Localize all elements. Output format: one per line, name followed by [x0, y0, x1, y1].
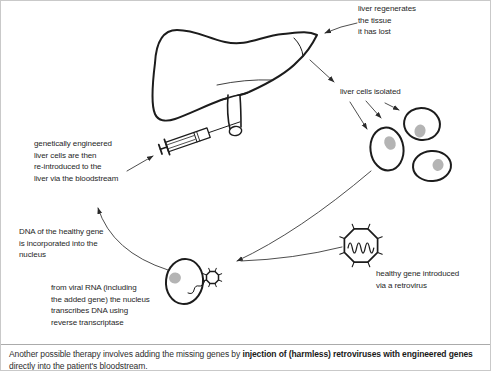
gallbladder-duct: [221, 93, 247, 137]
liver-cell: [368, 126, 406, 173]
arrow-infected-cell-to-reintroduction: [98, 208, 168, 270]
arrow-isolated-to-cell-1: [350, 102, 367, 129]
diagram-page: liver regenerates the tissue it has lost…: [0, 0, 491, 371]
label-liver-regenerates: liver regenerates the tissue it has lost: [358, 3, 416, 38]
label-healthy-gene-retrovirus: healthy gene introduced via a retrovirus: [376, 268, 459, 291]
retrovirus-body: [344, 229, 377, 262]
isolated-liver-cells: [368, 105, 452, 182]
arrow-liver-to-isolated-label: [310, 60, 334, 82]
caption-line2: directly into the patient's bloodstream.: [9, 361, 147, 371]
syringe-barrel: [165, 128, 210, 152]
caption-divider-rule: [1, 344, 491, 345]
liver-cell: [401, 105, 442, 143]
liver-cell: [412, 150, 452, 183]
label-liver-cells-isolated: liver cells isolated: [340, 86, 401, 98]
figure-caption: Another possible therapy involves adding…: [9, 348, 487, 371]
syringe-plunger-shaft: [160, 147, 167, 149]
arrow-isolated-to-cell-3: [385, 103, 399, 110]
arrow-text-to-syringe: [127, 156, 153, 171]
infected-cell-body: [164, 257, 206, 306]
retrovirus-icon: [340, 224, 382, 266]
arrow-regenerates-to-liver: [325, 23, 357, 33]
liver-cell-with-retrovirus: [164, 257, 222, 306]
attached-virus-body: [207, 272, 219, 284]
line-retrovirus-to-infected-cell: [241, 247, 342, 261]
attached-virus-icon: [203, 268, 221, 286]
caption-line1-bold: injection of (harmless) retroviruses wit…: [242, 349, 472, 359]
liver-illustration: [153, 30, 317, 137]
label-engineered-cells-reintroduced: genetically engineered liver cells are t…: [34, 138, 118, 184]
caption-line1-regular: Another possible therapy involves adding…: [9, 349, 242, 359]
label-dna-incorporated: DNA of the healthy gene is incorporated …: [19, 226, 103, 261]
label-viral-rna-transcription: from viral RNA (including the added gene…: [51, 282, 150, 328]
arrow-isolated-to-cell-2: [366, 101, 381, 118]
